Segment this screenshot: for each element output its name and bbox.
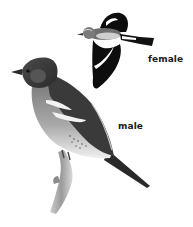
branch bbox=[50, 150, 73, 214]
female-bird bbox=[77, 13, 154, 89]
male-label: male bbox=[118, 121, 143, 131]
female-label: female bbox=[148, 54, 183, 64]
bird-illustration: female male bbox=[0, 0, 193, 227]
illustration-art bbox=[0, 0, 193, 227]
